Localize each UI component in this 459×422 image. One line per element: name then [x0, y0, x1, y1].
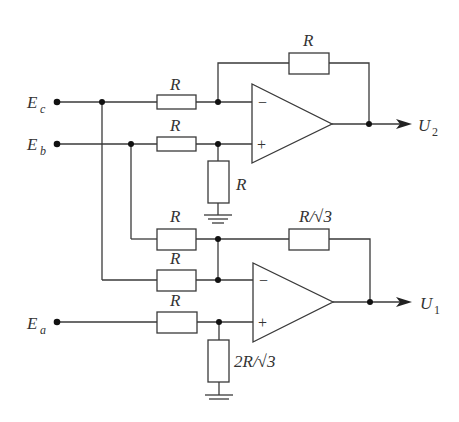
- resistor-amp2-shunt: [208, 161, 229, 203]
- terminal-eb-dot[interactable]: [54, 141, 61, 148]
- amp2-plus-sign: +: [257, 136, 266, 153]
- label-u2: U 2: [418, 116, 438, 139]
- label-amp1-shunt: 2R/√3: [234, 352, 275, 371]
- label-amp2-in-plus: R: [169, 116, 181, 135]
- terminal-ec-dot[interactable]: [54, 99, 61, 106]
- resistor-amp2-feedback: [289, 53, 329, 74]
- svg-text:E: E: [26, 93, 38, 112]
- label-amp1-feedback: R/√3: [298, 207, 332, 226]
- amp2-feedback-wire-right: [329, 63, 369, 124]
- svg-text:E: E: [26, 135, 38, 154]
- svg-text:U: U: [418, 116, 432, 135]
- resistor-amp2-in-plus: [157, 137, 196, 151]
- amp2-minus-sign: −: [258, 94, 267, 111]
- label-amp2-feedback: R: [302, 31, 314, 50]
- svg-text:b: b: [40, 144, 46, 158]
- svg-text:U: U: [420, 294, 434, 313]
- ground-icon: [204, 215, 232, 223]
- resistor-amp1-shunt: [208, 340, 229, 382]
- svg-text:a: a: [40, 323, 46, 337]
- label-eb: E b: [26, 135, 46, 158]
- resistor-amp1-in-ec: [157, 270, 196, 291]
- schematic: − + − + R R R R R R R R/√3 2R/√3 E c E b…: [0, 0, 459, 422]
- label-amp1-in-plus: R: [169, 291, 181, 310]
- svg-text:2: 2: [432, 125, 438, 139]
- amp1-feedback-wire-right: [329, 239, 370, 302]
- resistor-amp1-in-plus: [157, 312, 197, 333]
- svg-text:1: 1: [434, 303, 440, 317]
- label-ea: E a: [26, 314, 46, 337]
- amp1-minus-sign: −: [259, 272, 268, 289]
- label-amp1-in-eb: R: [169, 207, 181, 226]
- label-ec: E c: [26, 93, 46, 116]
- terminal-ea-dot[interactable]: [54, 319, 61, 326]
- circuit-diagram: − + − + R R R R R R R R/√3 2R/√3 E c E b…: [0, 0, 459, 422]
- label-amp1-in-ec: R: [169, 249, 181, 268]
- label-amp2-in-minus: R: [169, 75, 181, 94]
- label-u1: U 1: [420, 294, 440, 317]
- label-amp2-shunt: R: [235, 175, 247, 194]
- amp1-plus-sign: +: [258, 314, 267, 331]
- resistor-amp2-in-minus: [157, 95, 196, 109]
- svg-text:E: E: [26, 314, 38, 333]
- resistor-amp1-feedback: [289, 229, 329, 250]
- ground-icon: [205, 395, 233, 399]
- resistor-amp1-in-eb: [157, 229, 196, 250]
- svg-text:c: c: [40, 102, 46, 116]
